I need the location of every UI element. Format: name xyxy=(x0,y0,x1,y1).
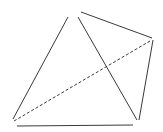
bottom-edge-line xyxy=(17,125,133,126)
dashed-diagonal-line xyxy=(14,41,150,121)
geometry-diagram xyxy=(0,0,163,132)
top-edge-line xyxy=(81,12,152,38)
inner-diagonal-line xyxy=(78,17,137,120)
right-edge-line xyxy=(139,40,153,120)
left-edge-line xyxy=(13,17,68,119)
